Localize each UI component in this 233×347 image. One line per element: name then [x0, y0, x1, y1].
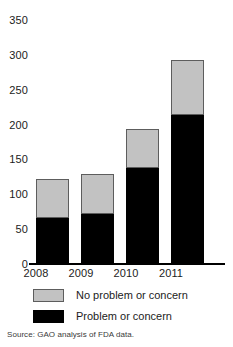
bars-layer	[33, 14, 225, 263]
bar-segment-no-problem-2010[interactable]	[126, 129, 159, 168]
source-note: Source: GAO analysis of FDA data.	[7, 330, 134, 340]
bar-group-2010[interactable]	[126, 129, 159, 263]
plot-area: 350 300 250 200 150 100 50 0	[33, 14, 225, 264]
bar-segment-no-problem-2011[interactable]	[171, 60, 204, 116]
bar-group-2008[interactable]	[36, 179, 69, 263]
bar-segment-problem-2010[interactable]	[126, 168, 159, 264]
legend-item-no-problem[interactable]: No problem or concern	[33, 287, 233, 304]
x-tick-label-2011: 2011	[145, 267, 197, 279]
legend-label-no-problem: No problem or concern	[76, 289, 188, 302]
x-axis-line	[29, 263, 225, 265]
bar-group-2011[interactable]	[171, 60, 204, 263]
y-tick-label-300: 300	[9, 49, 28, 60]
legend-swatch-black-icon	[33, 310, 64, 323]
y-tick-label-50: 50	[16, 224, 28, 235]
bar-segment-problem-2008[interactable]	[36, 218, 69, 263]
y-tick-label-350: 350	[9, 15, 28, 26]
bar-segment-problem-2009[interactable]	[81, 214, 114, 263]
chart-legend: No problem or concern Problem or concern	[33, 287, 233, 329]
legend-item-problem[interactable]: Problem or concern	[33, 308, 233, 325]
stacked-bar-chart: 350 300 250 200 150 100 50 0	[0, 0, 233, 347]
bar-group-2009[interactable]	[81, 174, 114, 263]
legend-label-problem: Problem or concern	[76, 310, 172, 323]
y-tick-label-150: 150	[9, 154, 28, 165]
y-tick-label-250: 250	[9, 84, 28, 95]
legend-swatch-gray-icon	[33, 289, 64, 302]
y-tick-label-200: 200	[9, 119, 28, 130]
bar-segment-no-problem-2009[interactable]	[81, 174, 114, 214]
y-tick-label-100: 100	[9, 189, 28, 200]
bar-segment-no-problem-2008[interactable]	[36, 179, 69, 218]
bar-segment-problem-2011[interactable]	[171, 115, 204, 263]
